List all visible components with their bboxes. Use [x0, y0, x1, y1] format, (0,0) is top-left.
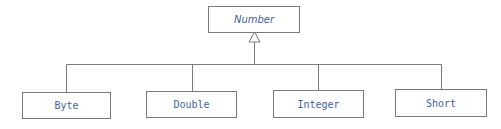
class-diagram: Number Byte Double Integer Short — [0, 0, 501, 129]
class-box-double: Double — [146, 91, 237, 118]
class-box-byte: Byte — [22, 92, 111, 119]
class-name-double: Double — [173, 99, 209, 110]
class-name-byte: Byte — [54, 100, 78, 111]
class-name-short: Short — [426, 98, 456, 109]
class-box-integer: Integer — [273, 90, 364, 118]
class-box-number: Number — [208, 6, 300, 33]
class-box-short: Short — [395, 89, 487, 117]
class-name-number: Number — [234, 14, 274, 25]
generalization-arrow-icon — [249, 32, 260, 42]
class-name-integer: Integer — [297, 99, 339, 110]
